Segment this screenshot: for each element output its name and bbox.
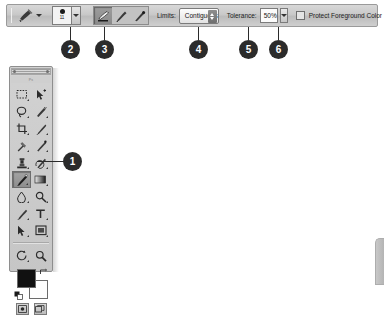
tool-dodge[interactable] bbox=[31, 188, 50, 205]
tool-gradient[interactable] bbox=[31, 171, 50, 188]
swap-colors-icon[interactable] bbox=[39, 267, 48, 276]
tolerance-value: 50% bbox=[261, 12, 277, 19]
chevron-down-icon bbox=[73, 14, 79, 17]
chevron-down-icon bbox=[36, 14, 42, 17]
tool-grid-secondary bbox=[10, 246, 52, 265]
tool-rectangle-shape[interactable] bbox=[31, 222, 50, 239]
tool-clone-stamp[interactable] bbox=[12, 154, 31, 171]
chevron-down-icon bbox=[210, 17, 214, 20]
move-arrow-icon bbox=[35, 89, 47, 101]
sampling-once-button[interactable] bbox=[112, 7, 130, 24]
callout-3: 3 bbox=[95, 40, 114, 59]
protect-foreground-row[interactable]: Protect Foreground Color bbox=[296, 11, 382, 20]
tolerance-label: Tolerance: bbox=[227, 12, 257, 19]
chevron-up-icon bbox=[210, 13, 214, 16]
toolbox-divider bbox=[13, 242, 49, 244]
flyout-triangle-icon bbox=[27, 218, 29, 220]
limits-label: Limits: bbox=[157, 12, 176, 19]
flyout-triangle-icon bbox=[27, 235, 29, 237]
brush-tool-icon bbox=[17, 7, 34, 24]
flyout-triangle-icon bbox=[46, 184, 48, 186]
flyout-triangle-icon bbox=[46, 235, 48, 237]
sampling-continuous-button[interactable] bbox=[94, 7, 112, 24]
callout-leader-6 bbox=[278, 27, 279, 40]
options-bar-drag-grip[interactable] bbox=[11, 8, 12, 23]
sampling-background-swatch-icon bbox=[133, 10, 146, 22]
protect-foreground-label: Protect Foreground Color bbox=[309, 12, 382, 19]
callout-6: 6 bbox=[269, 40, 288, 59]
tool-eyedropper[interactable] bbox=[12, 137, 31, 154]
flyout-triangle-icon bbox=[27, 150, 29, 152]
sampling-background-swatch-button[interactable] bbox=[130, 7, 148, 24]
limits-stepper-icon[interactable] bbox=[208, 10, 217, 23]
tool-lasso[interactable] bbox=[12, 103, 31, 120]
callout-2: 2 bbox=[61, 40, 80, 59]
type-t-icon bbox=[35, 208, 46, 219]
flyout-triangle-icon bbox=[46, 116, 48, 118]
magnifier-icon bbox=[35, 250, 47, 262]
tool-history-brush[interactable] bbox=[31, 154, 50, 171]
expand-dot-icon[interactable] bbox=[46, 70, 49, 73]
tool-horizontal-type[interactable] bbox=[31, 205, 50, 222]
callout-leader-4 bbox=[198, 27, 199, 40]
flyout-triangle-icon bbox=[27, 99, 29, 101]
brush-size-picker[interactable]: 11 bbox=[50, 6, 81, 25]
lasso-icon bbox=[16, 106, 28, 118]
tool-rotate-view[interactable] bbox=[12, 247, 31, 264]
tool-grid bbox=[10, 85, 52, 240]
screen-mode-row bbox=[10, 301, 52, 315]
marquee-icon bbox=[16, 89, 28, 100]
tool-move[interactable] bbox=[31, 86, 50, 103]
callout-1: 1 bbox=[63, 152, 82, 171]
change-screen-mode-button[interactable] bbox=[34, 303, 47, 315]
options-bar: 11 Limits: Contiguous bbox=[6, 4, 378, 27]
quick-mask-mode-button[interactable] bbox=[16, 303, 29, 315]
tool-rectangular-marquee[interactable] bbox=[12, 86, 31, 103]
tool-crop[interactable] bbox=[12, 120, 31, 137]
tolerance-slider-toggle[interactable] bbox=[280, 8, 288, 23]
tool-path-selection[interactable] bbox=[12, 222, 31, 239]
tool-zoom[interactable] bbox=[31, 247, 50, 264]
sampling-once-icon bbox=[115, 10, 128, 22]
brush-preview-well[interactable]: 11 bbox=[52, 6, 72, 25]
tool-slice[interactable] bbox=[31, 120, 50, 137]
flyout-triangle-icon bbox=[27, 133, 29, 135]
toolbox-panel: Ps bbox=[9, 66, 53, 272]
healing-brush-icon bbox=[35, 140, 47, 152]
default-colors-icon[interactable] bbox=[14, 291, 23, 300]
collapsed-panel-tab[interactable] bbox=[375, 238, 384, 285]
screen-mode-icon bbox=[35, 305, 45, 313]
sampling-continuous-icon bbox=[97, 10, 110, 22]
collapse-dot-icon[interactable] bbox=[13, 70, 16, 73]
callout-5: 5 bbox=[239, 40, 258, 59]
rectangle-shape-icon bbox=[35, 225, 47, 236]
tolerance-input[interactable]: 50% bbox=[260, 8, 278, 23]
toolbox-logo: Ps bbox=[11, 76, 51, 83]
callout-4: 4 bbox=[189, 40, 208, 59]
tool-blur[interactable] bbox=[12, 188, 31, 205]
pen-icon bbox=[16, 208, 28, 220]
protect-foreground-checkbox[interactable] bbox=[296, 11, 305, 20]
quick-selection-icon bbox=[35, 106, 47, 118]
tool-healing-brush[interactable] bbox=[31, 137, 50, 154]
foreground-color-swatch[interactable] bbox=[17, 269, 36, 288]
toolbox-titlebar[interactable] bbox=[11, 68, 51, 75]
flyout-triangle-icon bbox=[27, 167, 29, 169]
flyout-triangle-icon bbox=[46, 133, 48, 135]
flyout-triangle-icon bbox=[46, 201, 48, 203]
tool-background-eraser[interactable] bbox=[12, 171, 31, 188]
brush-tip-preview-icon bbox=[60, 9, 65, 14]
flyout-triangle-icon bbox=[46, 218, 48, 220]
toolbox-logo-text: Ps bbox=[29, 78, 34, 82]
limits-select[interactable]: Contiguous bbox=[179, 8, 219, 24]
tool-pen[interactable] bbox=[12, 205, 31, 222]
toolbox-shadow bbox=[53, 68, 59, 272]
crop-icon bbox=[16, 123, 28, 135]
tool-preset-picker[interactable] bbox=[17, 7, 42, 24]
blur-droplet-icon bbox=[16, 191, 27, 203]
tool-quick-selection[interactable] bbox=[31, 103, 50, 120]
sampling-mode-group bbox=[93, 6, 149, 25]
brush-popup-toggle[interactable] bbox=[72, 6, 81, 25]
slice-knife-icon bbox=[35, 123, 47, 135]
color-swatches bbox=[10, 267, 52, 301]
